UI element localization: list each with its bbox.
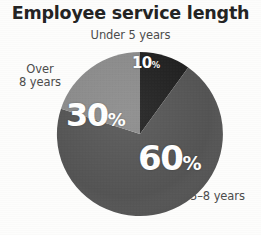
slice-label-over-8-years-line1: Over [26, 62, 53, 76]
pie-svg [56, 51, 224, 217]
slice-value-over-8-years-number: 30 [66, 96, 108, 134]
slice-label-over-8-years-line2: 8 years [19, 75, 61, 89]
percent-sign-icon: % [152, 60, 160, 70]
slice-label-under-5-years: Under 5 years [0, 29, 261, 42]
page-title: Employee service length [0, 3, 261, 23]
pie-shading-overlay [57, 52, 223, 216]
slice-value-under-5-years-number: 10 [132, 54, 152, 72]
pie-chart-figure: Employee service length Under 5 years Ov… [0, 0, 261, 235]
slice-value-over-8-years: 30% [66, 96, 125, 134]
slice-value-5-8-years-number: 60 [138, 138, 183, 178]
slice-value-5-8-years: 60% [138, 138, 201, 178]
pie-graphic [56, 51, 224, 217]
percent-sign-icon: % [108, 109, 125, 130]
slice-value-under-5-years: 10% [132, 54, 160, 72]
percent-sign-icon: % [183, 152, 202, 174]
